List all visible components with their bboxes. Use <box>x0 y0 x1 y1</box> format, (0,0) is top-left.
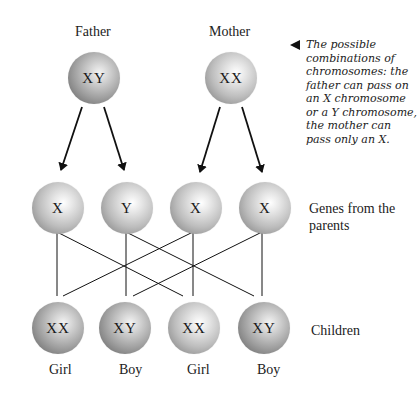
child-chromosomes: XX <box>182 320 206 337</box>
caption-pointer-icon <box>290 40 300 50</box>
child-sphere: XX <box>168 302 220 354</box>
gene-chromosome: Y <box>121 200 133 217</box>
arrow-mother-to-x1 <box>200 107 220 172</box>
arrow-mother-to-x2 <box>242 107 262 172</box>
gene-sphere: X <box>170 182 222 234</box>
line-gx3-girl1 <box>63 232 193 296</box>
mother-sphere: XX <box>205 52 257 104</box>
child-sex-label: Boy <box>119 362 142 378</box>
child-chromosomes: XY <box>252 320 276 337</box>
gene-chromosome: X <box>190 200 202 217</box>
father-sphere: XY <box>68 52 120 104</box>
line-gx4-boy1 <box>133 232 262 296</box>
child-chromosomes: XX <box>46 320 70 337</box>
child-sphere: XX <box>32 302 84 354</box>
line-gy-boy2 <box>126 232 254 296</box>
child-sex-label: Girl <box>187 362 210 378</box>
arrow-father-to-x <box>61 107 82 170</box>
child-sex-label: Girl <box>49 362 72 378</box>
caption: The possible combinations of chromosomes… <box>306 38 418 146</box>
father-chromosomes: XY <box>82 70 106 87</box>
gene-sphere: X <box>32 182 84 234</box>
line-gx1-girl2 <box>57 232 183 296</box>
child-sex-label: Boy <box>257 362 280 378</box>
mother-label: Mother <box>209 24 250 40</box>
mother-chromosomes: XX <box>219 70 243 87</box>
inheritance-diagram: Father Mother XY XX The possible combina… <box>0 0 419 394</box>
genes-row-label: Genes from the parents <box>309 200 399 234</box>
child-sphere: XY <box>238 302 290 354</box>
children-row-label: Children <box>311 322 360 339</box>
child-sphere: XY <box>99 302 151 354</box>
arrow-father-to-y <box>104 107 124 170</box>
gene-chromosome: X <box>259 200 271 217</box>
gene-chromosome: X <box>52 200 64 217</box>
gene-sphere: Y <box>101 182 153 234</box>
gene-sphere: X <box>239 182 291 234</box>
father-label: Father <box>75 24 111 40</box>
child-chromosomes: XY <box>113 320 137 337</box>
